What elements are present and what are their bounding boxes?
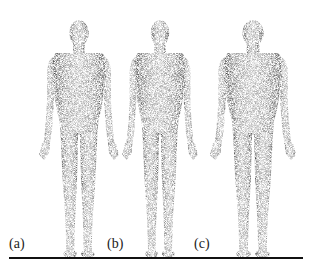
body-models-svg [0, 0, 317, 273]
panel-label-b: (b) [107, 236, 123, 252]
body-model-c [210, 20, 296, 258]
body-model-b [122, 20, 197, 258]
panel-label-c: (c) [194, 236, 210, 252]
body-model-a [39, 20, 119, 258]
ground-line [9, 257, 303, 259]
figure-three-body-models: (a) (b) (c) [0, 0, 317, 273]
panel-label-a: (a) [9, 236, 25, 252]
